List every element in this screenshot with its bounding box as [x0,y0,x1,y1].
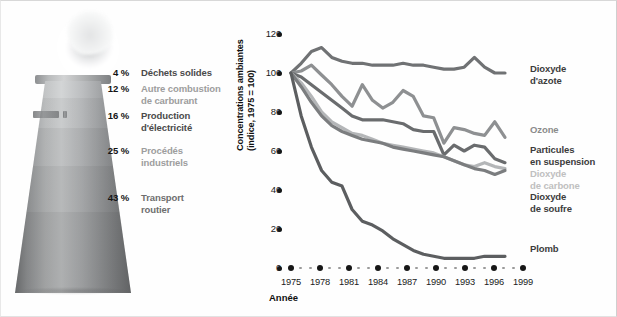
source-row: 25 %Procédés industriels [99,145,188,168]
source-label: Procédés industriels [141,145,188,168]
source-percent: 43 % [99,192,129,203]
source-label: Déchets solides [141,67,212,79]
series-legend-label: Ozone [530,124,559,136]
series-legend-label: Dioxyde d'azote [530,63,566,86]
source-percent: 25 % [99,145,129,156]
series-legend-label: Dioxyde de carbone [530,168,580,191]
source-label: Transport routier [141,192,184,215]
series-line [291,65,505,143]
smokestack-marking [33,111,59,118]
source-label: Autre combustion de carburant [141,83,221,106]
smokestack-shadow [17,287,129,295]
source-row: 4 %Déchets solides [99,67,212,79]
source-row: 16 %Production d'électricité [99,110,192,133]
source-percent: 12 % [99,83,129,94]
pollution-trend-chart: Concentrations ambiantes (indice, 1975 =… [233,1,617,317]
series-legend-label: Particules en suspension [530,144,595,167]
smokestack-marking-secondary [63,111,67,118]
source-percent: 4 % [99,67,129,78]
source-percent: 16 % [99,110,129,121]
source-row: 43 %Transport routier [99,192,184,215]
figure-canvas: 4 %Déchets solides12 %Autre combustion d… [0,0,617,317]
series-line [291,73,505,169]
series-line [291,48,505,73]
series-legend-label: Dioxyde de soufre [530,191,572,214]
x-axis-title: Année [269,292,298,303]
source-row: 12 %Autre combustion de carburant [99,83,221,106]
source-label: Production d'électricité [141,110,192,133]
series-legend-label: Plomb [530,243,559,255]
smoke-plume-inner-icon [67,11,113,55]
